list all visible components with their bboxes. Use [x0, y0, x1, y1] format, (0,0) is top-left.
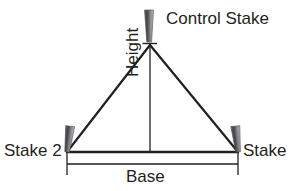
- diagram-canvas: [0, 0, 291, 191]
- stake-icon-right: [231, 126, 243, 153]
- height-label: Height: [124, 28, 141, 77]
- base-label: Base: [126, 168, 165, 185]
- stake-icon-left: [63, 126, 75, 153]
- stake-right-label: Stake: [243, 142, 286, 159]
- stake-2-label: Stake 2: [4, 142, 62, 159]
- survey-triangle-diagram: Control Stake Stake 2 Stake Base Height: [0, 0, 291, 191]
- stake-icon-control: [143, 10, 158, 44]
- triangle-right-side: [150, 45, 238, 152]
- control-stake-label: Control Stake: [166, 10, 269, 27]
